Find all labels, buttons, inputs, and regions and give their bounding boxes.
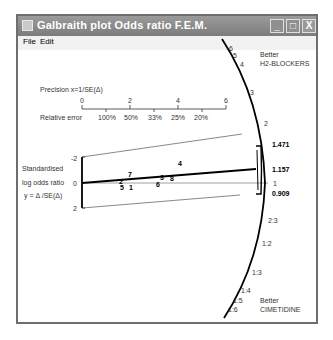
y-tick: -2 xyxy=(71,155,77,162)
relative-error-label: Relative error xyxy=(40,114,83,121)
precision-tick: 4 xyxy=(176,97,180,104)
lower-band-line xyxy=(82,195,240,208)
precision-axis: 0 2 4 6 xyxy=(80,97,228,112)
radial-label: 3 xyxy=(250,89,254,96)
relative-error-tick: 100% xyxy=(98,114,116,121)
radial-label: 1:2 xyxy=(262,240,272,247)
ci-upper-label: 1.471 xyxy=(272,141,290,148)
study-point: 3 xyxy=(160,174,164,181)
radial-label: 1:4 xyxy=(241,287,251,294)
pooled-estimate-label: 1.157 xyxy=(272,166,290,173)
y-tick: 0 xyxy=(73,180,77,187)
study-point: 8 xyxy=(170,175,174,182)
radial-label: 1:6 xyxy=(228,306,238,313)
radial-label: 4 xyxy=(240,61,244,68)
study-point: 7 xyxy=(128,171,132,178)
y-axis-label-line3: y = Δ /SE(Δ) xyxy=(24,192,62,200)
study-point: 5 xyxy=(120,184,124,191)
precision-axis-label: Precision x=1/SE(Δ) xyxy=(40,86,103,94)
study-points: 2 7 5 1 6 3 8 4 xyxy=(119,160,182,191)
relative-error-tick: 50% xyxy=(124,114,138,121)
radial-scale-arc xyxy=(222,39,265,318)
ci-lower-label: 0.909 xyxy=(272,190,290,197)
study-point: 4 xyxy=(178,160,182,167)
top-better-label: Better xyxy=(260,51,279,58)
upper-band-line xyxy=(82,134,242,157)
precision-tick: 6 xyxy=(224,97,228,104)
radial-label: 6 xyxy=(229,45,233,52)
precision-tick: 0 xyxy=(80,97,84,104)
precision-tick: 2 xyxy=(128,97,132,104)
relative-error-tick: 33% xyxy=(148,114,162,121)
radial-label: 1:3 xyxy=(252,269,262,276)
y-axis-label-line2: log odds ratio xyxy=(22,179,64,187)
y-axis-label-line1: Standardised xyxy=(22,165,63,172)
radial-label: 2:3 xyxy=(268,217,278,224)
relative-error-tick: 25% xyxy=(171,114,185,121)
relative-error-tick: 20% xyxy=(194,114,208,121)
study-point: 6 xyxy=(156,181,160,188)
bottom-better-label: Better xyxy=(260,297,279,304)
galbraith-plot: Precision x=1/SE(Δ) 0 2 4 6 Relative err… xyxy=(0,0,333,340)
y-tick: 2 xyxy=(73,205,77,212)
pooled-estimate-line xyxy=(82,169,256,183)
study-point: 1 xyxy=(129,184,133,191)
radial-label: 2 xyxy=(264,120,268,127)
radial-label: 1:5 xyxy=(233,297,243,304)
radial-label: 5 xyxy=(233,52,237,59)
bottom-group-label: CIMETIDINE xyxy=(260,306,301,313)
null-label: 1 xyxy=(273,180,277,187)
top-group-label: H2-BLOCKERS xyxy=(260,60,310,67)
